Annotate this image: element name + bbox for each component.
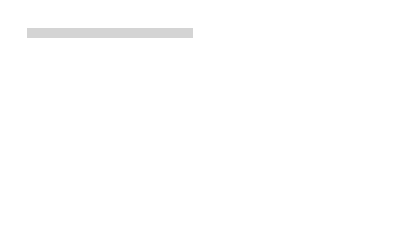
operon-bar bbox=[27, 28, 193, 38]
trp-operon-diagram bbox=[0, 0, 404, 252]
